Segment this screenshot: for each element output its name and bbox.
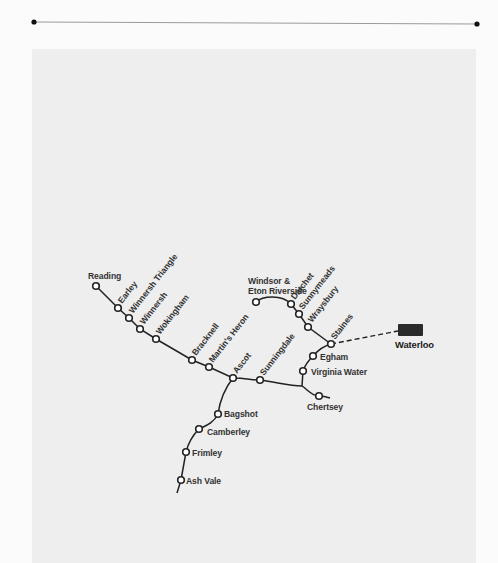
- station-marker-bagshot: [215, 411, 222, 418]
- station-marker-reading: [93, 283, 100, 290]
- label-frimley: Frimley: [192, 448, 222, 458]
- station-marker-egham: [310, 353, 317, 360]
- station-marker-winnersh-triangle: [126, 315, 133, 322]
- label-ascot: Ascot: [231, 350, 253, 375]
- station-marker-martins-heron: [206, 364, 213, 371]
- label-ash-vale: Ash Vale: [186, 476, 221, 486]
- label-sunningdale: Sunningdale: [258, 331, 297, 377]
- station-marker-ash-vale: [178, 477, 185, 484]
- station-marker-wokingham: [153, 336, 160, 343]
- label-staines: Staines: [329, 311, 355, 341]
- label-bagshot: Bagshot: [224, 409, 258, 419]
- station-marker-datchet: [288, 301, 295, 308]
- station-marker-earley: [115, 305, 122, 312]
- rail-map: Reading Earley Winnersh Triangle Winners…: [0, 0, 498, 563]
- station-marker-ascot: [230, 375, 237, 382]
- label-camberley: Camberley: [207, 427, 250, 437]
- label-reading: Reading: [88, 271, 121, 281]
- label-egham: Egham: [320, 352, 349, 362]
- label-chertsey: Chertsey: [307, 402, 343, 412]
- station-marker-wraysbury: [305, 324, 312, 331]
- station-marker-virginia-water: [300, 368, 307, 375]
- station-marker-bracknell: [189, 357, 196, 364]
- station-marker-frimley: [183, 449, 190, 456]
- station-marker-sunnymeads: [296, 311, 303, 318]
- station-marker-chertsey: [316, 393, 323, 400]
- line-staines: [302, 344, 331, 386]
- station-marker-windsor: [253, 299, 260, 306]
- label-virginia-water: Virginia Water: [311, 367, 368, 377]
- station-marker-staines: [328, 341, 335, 348]
- waterloo-terminus-icon: [398, 324, 423, 336]
- label-waterloo: Waterloo: [395, 339, 434, 350]
- station-marker-camberley: [196, 426, 203, 433]
- label-windsor-line1: Windsor &: [248, 276, 290, 286]
- station-marker-sunningdale: [257, 377, 264, 384]
- station-marker-winnersh: [137, 326, 144, 333]
- line-reading-ascot: [96, 286, 302, 386]
